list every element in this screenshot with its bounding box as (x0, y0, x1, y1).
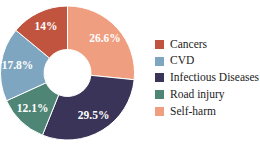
legend-item-label: Infectious Diseases (170, 72, 259, 84)
legend-item-label: Self-harm (170, 106, 216, 118)
legend-swatch-icon (155, 73, 164, 82)
legend-item-label: Cancers (170, 39, 207, 51)
donut-slices-group (1, 6, 135, 140)
donut-chart-svg: 26.6%29.5%12.1%17.8%14% (0, 0, 140, 145)
donut-slice-value-label: 12.1% (17, 102, 49, 114)
legend-item-infectious-diseases[interactable]: Infectious Diseases (155, 70, 260, 87)
donut-chart-plot-area: 26.6%29.5%12.1%17.8%14% (0, 0, 140, 145)
legend-swatch-icon (155, 107, 164, 116)
donut-slice-value-label: 29.5% (78, 109, 110, 121)
legend-swatch-icon (155, 90, 164, 99)
legend-item-label: Road injury (170, 89, 225, 101)
chart-legend: CancersCVDInfectious DiseasesRoad injury… (155, 36, 260, 120)
legend-item-label: CVD (170, 55, 194, 67)
legend-item-self-harm[interactable]: Self-harm (155, 103, 260, 120)
legend-swatch-icon (155, 57, 164, 66)
donut-slice-value-label: 17.8% (2, 59, 34, 71)
donut-chart-figure: 26.6%29.5%12.1%17.8%14% CancersCVDInfect… (0, 0, 260, 145)
donut-slice-value-label: 26.6% (89, 32, 121, 44)
donut-slice-value-label: 14% (35, 20, 58, 32)
legend-swatch-icon (155, 40, 164, 49)
legend-item-road-injury[interactable]: Road injury (155, 86, 260, 103)
legend-item-cvd[interactable]: CVD (155, 53, 260, 70)
donut-slice[interactable] (42, 75, 134, 140)
legend-item-cancers[interactable]: Cancers (155, 36, 260, 53)
